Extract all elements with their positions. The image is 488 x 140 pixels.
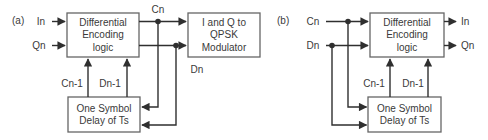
block-diagram-figure: (a) In Qn Differential Encoding logic Cn… [0, 0, 488, 140]
input-label-in: In [37, 16, 45, 27]
modulator-box-line3: Modulator [202, 42, 247, 53]
delay-box-line1: One Symbol [377, 103, 432, 114]
encoder-box-line2: Encoding [386, 29, 428, 40]
diagram-b-label: (b) [277, 15, 289, 26]
diagram-canvas: (a) In Qn Differential Encoding logic Cn… [0, 0, 488, 140]
diagram-a-label: (a) [12, 15, 24, 26]
output-label-qn: Qn [461, 40, 474, 51]
modulator-box-line2: QPSK [210, 29, 238, 40]
feedback-wire-dn [142, 46, 176, 126]
encoder-box-line3: logic [397, 42, 418, 53]
diagram-a: (a) In Qn Differential Encoding logic Cn… [12, 4, 260, 132]
signal-label-dn: Dn [191, 64, 204, 75]
encoder-box-line1: Differential [383, 17, 431, 28]
feedback-wire-cn [142, 22, 158, 108]
input-label-dn: Dn [307, 40, 320, 51]
delay-box-line2: Delay of Ts [380, 115, 429, 126]
encoder-box-line1: Differential [79, 17, 127, 28]
feedback-wire-cn [348, 22, 367, 108]
delay-box-line1: One Symbol [76, 103, 131, 114]
encoder-box-line3: logic [93, 42, 114, 53]
signal-label-dn1: Dn-1 [402, 78, 424, 89]
delay-box-line2: Delay of Ts [79, 115, 128, 126]
output-label-in: In [461, 16, 469, 27]
diagram-b: (b) Cn Dn Differential Encoding logic In… [277, 13, 474, 132]
encoder-box-line2: Encoding [82, 29, 124, 40]
signal-label-cn: Cn [152, 4, 165, 15]
input-label-qn: Qn [32, 40, 45, 51]
signal-label-cn1: Cn-1 [363, 78, 385, 89]
feedback-wire-dn [332, 46, 367, 126]
input-label-cn: Cn [307, 16, 320, 27]
signal-label-cn1: Cn-1 [61, 78, 83, 89]
signal-label-dn1: Dn-1 [99, 78, 121, 89]
modulator-box-line1: I and Q to [202, 17, 246, 28]
